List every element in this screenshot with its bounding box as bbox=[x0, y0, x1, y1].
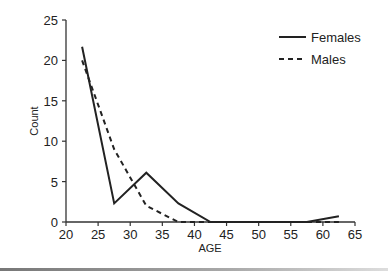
x-tick-label: 25 bbox=[91, 227, 105, 242]
bottom-rule bbox=[0, 268, 388, 271]
x-tick-label: 60 bbox=[316, 227, 330, 242]
y-tick-label: 10 bbox=[44, 134, 58, 149]
y-tick-label: 25 bbox=[44, 13, 58, 28]
x-tick-label: 30 bbox=[123, 227, 137, 242]
y-tick-label: 15 bbox=[44, 94, 58, 109]
axes: 051015202520253035404550556065 bbox=[44, 13, 363, 242]
x-tick-label: 35 bbox=[155, 227, 169, 242]
y-tick-label: 5 bbox=[51, 175, 58, 190]
legend-label-females: Females bbox=[311, 30, 361, 45]
series-lines bbox=[82, 47, 339, 222]
y-tick-label: 20 bbox=[44, 53, 58, 68]
series-females bbox=[82, 47, 339, 222]
x-tick-label: 50 bbox=[251, 227, 265, 242]
x-tick-label: 65 bbox=[348, 227, 362, 242]
y-axis-label: Count bbox=[28, 106, 40, 135]
x-tick-label: 45 bbox=[219, 227, 233, 242]
y-tick-label: 0 bbox=[51, 215, 58, 230]
x-axis-label: AGE bbox=[198, 242, 221, 254]
x-tick-label: 40 bbox=[187, 227, 201, 242]
legend-label-males: Males bbox=[311, 52, 346, 67]
line-chart: 051015202520253035404550556065 AGE Count… bbox=[0, 0, 388, 274]
x-tick-label: 55 bbox=[284, 227, 298, 242]
x-tick-label: 20 bbox=[59, 227, 73, 242]
legend: Females Males bbox=[279, 30, 361, 67]
